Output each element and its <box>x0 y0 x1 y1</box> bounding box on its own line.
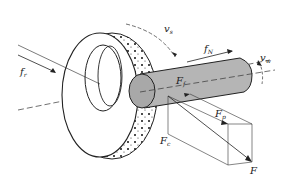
F-vector <box>168 96 250 160</box>
fN-arrowhead-icon <box>227 49 233 54</box>
label-Fp: Fp <box>214 108 226 121</box>
label-vs: vs <box>164 23 173 35</box>
label-fr: fr <box>19 66 28 78</box>
workpiece-end <box>129 74 155 108</box>
F-arrowhead-icon <box>245 155 252 162</box>
label-vw: vw <box>260 52 272 64</box>
grinding-diagram: fr vs fN vw Ff Fp Fc F <box>0 0 286 180</box>
label-fN: fN <box>203 43 214 55</box>
Fp-arrowhead-icon <box>221 120 228 125</box>
label-Fc: Fc <box>159 135 171 147</box>
force-box <box>168 94 252 165</box>
label-F: F <box>249 165 258 176</box>
vs-arrowhead-icon <box>172 52 177 57</box>
